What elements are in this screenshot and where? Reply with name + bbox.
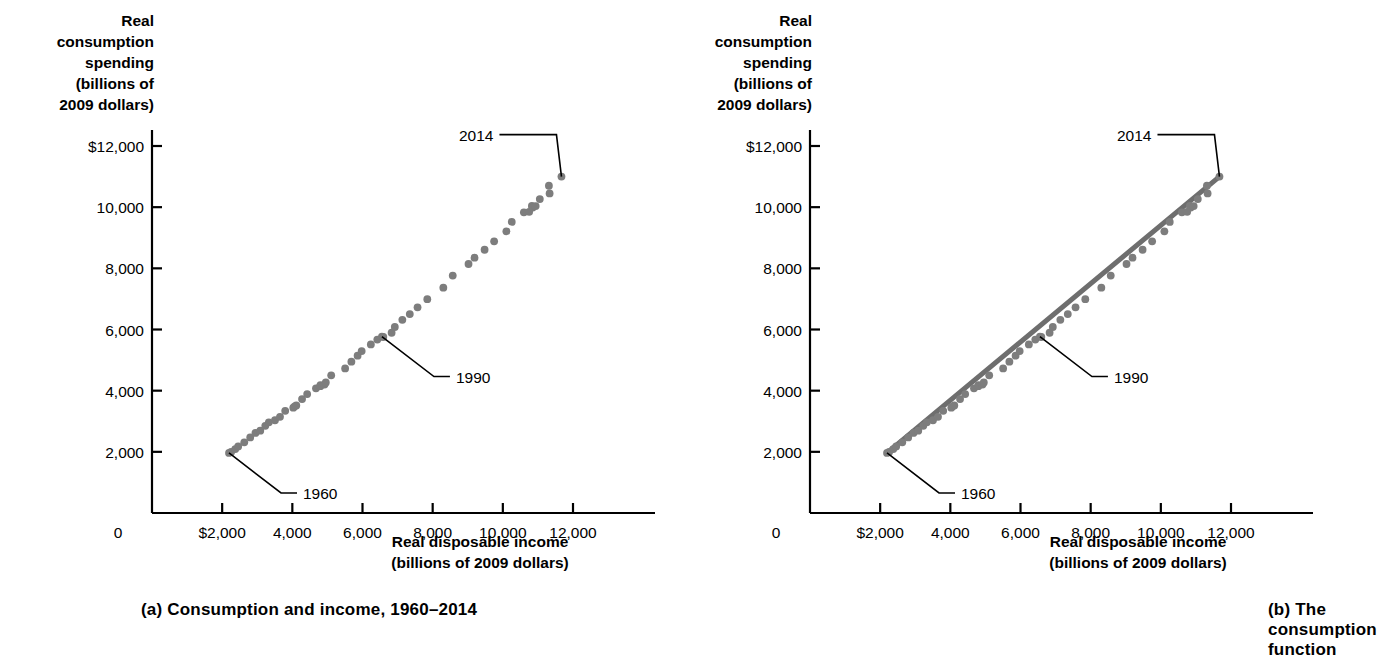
data-point [1148, 237, 1156, 245]
panel-a-caption: (a) Consumption and income, 1960–2014 [141, 600, 477, 620]
data-point [950, 402, 958, 410]
data-point [322, 379, 330, 387]
panel-a: 2,0004,0006,0008,00010,000$12,0000$2,000… [0, 0, 658, 647]
data-point [545, 182, 553, 190]
panel-b-x-axis-title: Real disposable income (billions of 2009… [993, 531, 1283, 573]
data-point [1064, 310, 1072, 318]
data-point [471, 254, 479, 262]
data-point [536, 195, 544, 203]
data-point [1072, 303, 1080, 311]
data-point [391, 323, 399, 331]
annotation-leader-line [382, 337, 450, 377]
y-tick-label: $12,000 [746, 138, 802, 155]
panel-a-x-axis-title: Real disposable income (billions of 2009… [335, 531, 625, 573]
panel-b-caption: (b) The consumption function [1268, 600, 1377, 659]
data-point [423, 295, 431, 303]
data-point [1049, 323, 1057, 331]
data-point [406, 310, 414, 318]
data-point [398, 316, 406, 324]
data-point [532, 202, 540, 210]
data-point [502, 227, 510, 235]
annotation-label-1960: 1960 [303, 485, 338, 502]
y-ticks-a: 2,0004,0006,0008,00010,000$12,000 [88, 138, 162, 461]
data-point [980, 379, 988, 387]
y-tick-label: 2,000 [763, 444, 802, 461]
annotation-leader-line [229, 453, 297, 493]
y-tick-label: 10,000 [755, 199, 803, 216]
data-point [508, 218, 516, 226]
data-point [525, 208, 533, 216]
data-point [1005, 358, 1013, 366]
panel-a-y-axis-title: Real consumption spending (billions of 2… [8, 10, 154, 115]
y-tick-label: 2,000 [105, 444, 144, 461]
y-tick-label: 4,000 [763, 383, 802, 400]
data-point [347, 358, 355, 366]
x-tick-label: $2,000 [198, 524, 246, 541]
x-tick-label: $2,000 [856, 524, 904, 541]
data-point [367, 341, 375, 349]
annotation-label-2014: 2014 [1117, 127, 1152, 144]
data-point [281, 407, 289, 415]
annotation-leader-line [1157, 135, 1219, 177]
x-origin-label: 0 [772, 524, 781, 541]
data-point [449, 272, 457, 280]
panel-b: 2,0004,0006,0008,00010,000$12,0000$2,000… [658, 0, 1316, 647]
y-tick-label: $12,000 [88, 138, 144, 155]
data-point [414, 303, 422, 311]
y-tick-label: 6,000 [105, 322, 144, 339]
plot-area-b: 2,0004,0006,0008,00010,000$12,0000$2,000… [746, 127, 1313, 541]
annotations-a: 201419901960 [229, 127, 561, 502]
data-points-a [225, 173, 565, 457]
data-point [934, 413, 942, 421]
y-tick-label: 8,000 [105, 260, 144, 277]
data-point [1139, 246, 1147, 254]
annotation-leader-line [1040, 337, 1108, 377]
data-point [1203, 182, 1211, 190]
y-tick-label: 4,000 [105, 383, 144, 400]
data-point [999, 365, 1007, 373]
data-point [327, 371, 335, 379]
data-point [303, 390, 311, 398]
panel-b-y-axis-title: Real consumption spending (billions of 2… [666, 10, 812, 115]
data-point [985, 371, 993, 379]
annotation-label-1990: 1990 [456, 369, 491, 386]
data-point [1056, 316, 1064, 324]
data-point [1204, 190, 1212, 198]
data-point [481, 246, 489, 254]
data-point [939, 407, 947, 415]
annotation-leader-line [887, 453, 955, 493]
data-point [276, 413, 284, 421]
data-point [1129, 254, 1137, 262]
data-point [439, 284, 447, 292]
y-ticks-b: 2,0004,0006,0008,00010,000$12,000 [746, 138, 820, 461]
data-point [546, 190, 554, 198]
x-tick-label: 4,000 [273, 524, 312, 541]
data-point [961, 390, 969, 398]
data-point [1194, 195, 1202, 203]
data-point [1107, 272, 1115, 280]
y-tick-label: 8,000 [763, 260, 802, 277]
data-point [341, 365, 349, 373]
data-point [1097, 284, 1105, 292]
annotation-leader-line [499, 135, 561, 177]
plot-area-a: 2,0004,0006,0008,00010,000$12,0000$2,000… [88, 127, 655, 541]
data-point [1160, 227, 1168, 235]
annotation-label-2014: 2014 [459, 127, 494, 144]
data-point [1183, 208, 1191, 216]
data-point [292, 402, 300, 410]
data-point [1025, 341, 1033, 349]
data-point [358, 347, 366, 355]
data-point [465, 260, 473, 268]
y-tick-label: 10,000 [97, 199, 145, 216]
data-point [1190, 202, 1198, 210]
data-point [490, 237, 498, 245]
data-point [1123, 260, 1131, 268]
data-point [1081, 295, 1089, 303]
y-tick-label: 6,000 [763, 322, 802, 339]
data-point [1166, 218, 1174, 226]
x-origin-label: 0 [114, 524, 123, 541]
annotation-label-1990: 1990 [1114, 369, 1149, 386]
x-tick-label: 4,000 [931, 524, 970, 541]
annotation-label-1960: 1960 [961, 485, 996, 502]
